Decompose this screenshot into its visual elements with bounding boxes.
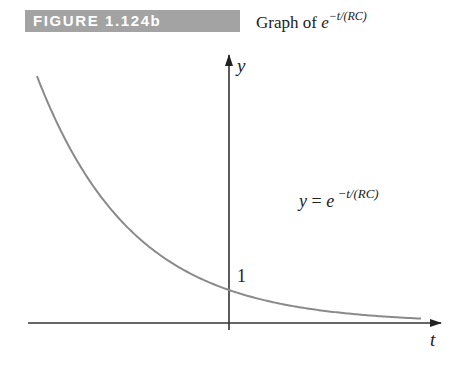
- eq-base: e: [326, 191, 334, 211]
- plot-area: [0, 0, 466, 373]
- eq-equals: =: [307, 191, 326, 211]
- x-axis-label: t: [430, 329, 435, 351]
- y-intercept-label: 1: [237, 266, 246, 287]
- eq-y: y: [299, 191, 307, 211]
- equation-label: y = e −t/(RC): [299, 186, 379, 212]
- y-axis-label: y: [237, 55, 245, 77]
- eq-exponent: −t/(RC): [334, 186, 379, 201]
